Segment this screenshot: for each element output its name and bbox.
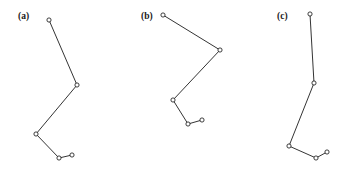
chain-node-3 — [287, 144, 291, 148]
figure-container: (a)(b)(c) — [0, 0, 354, 174]
panel-label: (b) — [141, 11, 153, 22]
panel-label: (a) — [18, 11, 29, 22]
chain-node-4 — [186, 122, 190, 126]
chain-node-3 — [171, 98, 175, 102]
chain-node-1 — [47, 18, 51, 22]
chain-node-2 — [75, 83, 79, 87]
polyline-chains-figure: (a)(b)(c) — [0, 0, 354, 174]
chain-node-5 — [70, 153, 74, 157]
chain-node-1 — [161, 13, 165, 17]
chain-node-3 — [34, 132, 38, 136]
chain-node-4 — [314, 156, 318, 160]
chain-node-2 — [218, 48, 222, 52]
figure-background — [0, 0, 354, 174]
chain-node-5 — [325, 150, 329, 154]
chain-node-5 — [200, 118, 204, 122]
chain-node-1 — [308, 12, 312, 16]
chain-node-2 — [312, 81, 316, 85]
panel-label: (c) — [277, 11, 288, 22]
chain-node-4 — [57, 156, 61, 160]
